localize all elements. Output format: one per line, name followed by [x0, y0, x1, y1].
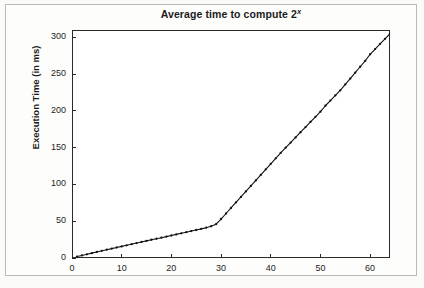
data-point: [76, 255, 78, 257]
x-tick-mark: [121, 254, 122, 258]
data-point: [185, 231, 187, 233]
data-point: [91, 252, 93, 254]
data-point: [140, 241, 142, 243]
data-point: [260, 174, 262, 176]
data-point: [175, 233, 177, 235]
data-point: [314, 116, 316, 118]
data-point: [205, 227, 207, 229]
y-tick-label: 300: [32, 31, 66, 41]
x-tick-mark: [171, 254, 172, 258]
data-point: [106, 249, 108, 251]
data-point: [270, 163, 272, 165]
chart-title-text: Average time to compute 2: [161, 8, 297, 20]
y-tick-mark: [72, 110, 76, 111]
data-point: [220, 218, 222, 220]
y-tick-mark: [72, 258, 76, 259]
data-point: [200, 228, 202, 230]
x-tick-mark: [320, 254, 321, 258]
data-point: [275, 157, 277, 159]
data-point: [309, 121, 311, 123]
data-point: [255, 179, 257, 181]
x-tick-mark: [270, 254, 271, 258]
data-point: [354, 72, 356, 74]
data-point: [180, 232, 182, 234]
data-point: [334, 94, 336, 96]
y-tick-label: 200: [32, 105, 66, 115]
y-tick-label: 150: [32, 142, 66, 152]
data-point: [294, 136, 296, 138]
y-tick-label: 100: [32, 178, 66, 188]
data-point: [190, 230, 192, 232]
data-point: [299, 131, 301, 133]
data-point: [280, 152, 282, 154]
data-point: [121, 245, 123, 247]
data-point: [289, 141, 291, 143]
x-tick-mark: [221, 254, 222, 258]
data-point: [364, 60, 366, 62]
y-tick-mark: [72, 221, 76, 222]
chart-title-exponent: x: [297, 7, 301, 16]
y-tick-label: 50: [32, 215, 66, 225]
data-point: [101, 250, 103, 252]
data-point: [339, 89, 341, 91]
data-point: [379, 43, 381, 45]
data-point: [329, 99, 331, 101]
data-point: [374, 48, 376, 50]
data-point: [160, 237, 162, 239]
data-point: [150, 239, 152, 241]
data-point: [126, 244, 128, 246]
series-markers: [76, 33, 390, 258]
data-point: [210, 225, 212, 227]
figure-page: Average time to compute 2x Execution Tim…: [0, 0, 424, 288]
y-tick-mark: [72, 147, 76, 148]
y-tick-label: 250: [32, 68, 66, 78]
data-point: [165, 235, 167, 237]
y-tick-label: 0: [32, 252, 66, 262]
data-point: [369, 53, 371, 55]
chart-title: Average time to compute 2x: [72, 8, 390, 20]
data-point: [145, 240, 147, 242]
x-tick-label: 20: [156, 263, 186, 273]
data-point: [359, 66, 361, 68]
x-tick-label: 30: [206, 263, 236, 273]
data-point: [235, 201, 237, 203]
data-point: [240, 196, 242, 198]
data-point: [344, 83, 346, 85]
data-point: [245, 190, 247, 192]
data-point: [135, 242, 137, 244]
data-point: [349, 77, 351, 79]
y-tick-mark: [72, 184, 76, 185]
data-point: [170, 234, 172, 236]
data-point: [230, 207, 232, 209]
chart-figure: Average time to compute 2x Execution Tim…: [0, 0, 424, 288]
data-point: [96, 251, 98, 253]
data-point: [155, 238, 157, 240]
series-line: [77, 34, 390, 257]
data-point: [116, 246, 118, 248]
data-point: [384, 38, 386, 40]
x-tick-label: 0: [57, 263, 87, 273]
x-tick-label: 60: [355, 263, 385, 273]
x-tick-label: 50: [305, 263, 335, 273]
data-point: [285, 147, 287, 149]
plot-series-svg: [72, 30, 390, 258]
data-point: [324, 105, 326, 107]
data-point: [215, 223, 217, 225]
data-point: [130, 243, 132, 245]
data-point: [319, 110, 321, 112]
y-tick-mark: [72, 37, 76, 38]
data-point: [304, 126, 306, 128]
x-tick-label: 10: [107, 263, 137, 273]
data-point: [86, 253, 88, 255]
data-point: [195, 229, 197, 231]
x-tick-mark: [370, 254, 371, 258]
x-tick-mark: [72, 254, 73, 258]
data-point: [81, 254, 83, 256]
y-tick-mark: [72, 74, 76, 75]
data-point: [225, 212, 227, 214]
data-point: [250, 185, 252, 187]
x-tick-label: 40: [256, 263, 286, 273]
data-point: [265, 168, 267, 170]
data-point: [111, 247, 113, 249]
